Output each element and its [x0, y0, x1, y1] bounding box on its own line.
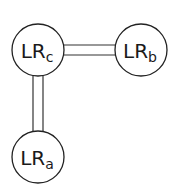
edge-c-b	[64, 45, 115, 55]
node-lr-c: LRc	[12, 24, 64, 76]
diagram-canvas: LRc LRb LRa	[0, 0, 181, 194]
node-lr-b: LRb	[115, 24, 167, 76]
node-lr-a: LRa	[12, 131, 64, 183]
edge-c-a	[33, 76, 43, 131]
